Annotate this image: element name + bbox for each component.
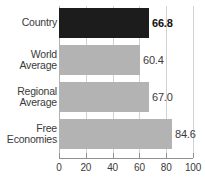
- bar-world-average: [59, 45, 140, 75]
- bar-country: [59, 8, 149, 38]
- bar-row-free-economies: Free Economies 84.6: [0, 119, 205, 149]
- x-tick-40: [113, 153, 114, 158]
- value-label-country: 66.8: [152, 8, 173, 38]
- x-tick-label-100: 100: [185, 162, 201, 173]
- x-tick-label-0: 0: [56, 162, 61, 173]
- bar-row-world-average: World Average 60.4: [0, 45, 205, 75]
- x-tick-label-80: 80: [161, 162, 172, 173]
- x-tick-0: [59, 153, 60, 158]
- value-label-regional-average: 67.0: [152, 82, 173, 112]
- x-tick-80: [166, 153, 167, 158]
- category-label-free-economies: Free Economies: [0, 123, 57, 146]
- category-label-regional-average: Regional Average: [0, 86, 57, 109]
- x-tick-label-20: 20: [80, 162, 91, 173]
- x-tick-label-40: 40: [107, 162, 118, 173]
- bar-row-country: Country 66.8: [0, 8, 205, 38]
- category-label-world-average: World Average: [0, 49, 57, 72]
- x-tick-100: [193, 153, 194, 158]
- bar-regional-average: [59, 82, 149, 112]
- x-axis-line: [59, 158, 193, 159]
- bar-rows: Country 66.8 World Average 60.4 Regional…: [0, 6, 205, 158]
- x-tick-60: [139, 153, 140, 158]
- bar-chart: Country 66.8 World Average 60.4 Regional…: [0, 0, 205, 183]
- value-label-world-average: 60.4: [143, 45, 164, 75]
- x-tick-label-60: 60: [134, 162, 145, 173]
- category-label-country: Country: [0, 17, 57, 29]
- bar-row-regional-average: Regional Average 67.0: [0, 82, 205, 112]
- x-tick-20: [86, 153, 87, 158]
- bar-free-economies: [59, 119, 172, 149]
- value-label-free-economies: 84.6: [175, 119, 196, 149]
